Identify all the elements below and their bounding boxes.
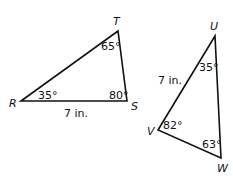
triangle-uvw: U V W 35° 82° 63° 7 in. [147, 20, 229, 175]
triangles-diagram: R T S 35° 65° 80° 7 in. U V W 35° 82° 63… [0, 0, 233, 179]
angle-w-label: 63° [202, 138, 222, 151]
angle-t-label: 65° [101, 40, 121, 53]
vertex-u-label: U [210, 20, 218, 33]
side-uv-label: 7 in. [158, 74, 182, 87]
angle-r-label: 35° [38, 89, 58, 102]
vertex-t-label: T [113, 15, 121, 28]
triangle-rst: R T S 35° 65° 80° 7 in. [9, 15, 138, 120]
angle-u-label: 35° [199, 61, 219, 74]
vertex-s-label: S [131, 100, 138, 113]
vertex-v-label: V [147, 125, 156, 138]
side-rs-label: 7 in. [64, 107, 88, 120]
vertex-w-label: W [217, 162, 229, 175]
angle-s-label: 80° [109, 89, 129, 102]
vertex-r-label: R [9, 97, 17, 110]
angle-v-label: 82° [163, 119, 183, 132]
